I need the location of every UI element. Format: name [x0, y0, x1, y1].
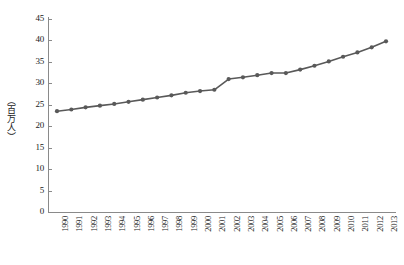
data-point-marker	[312, 64, 316, 68]
data-point-marker	[227, 77, 231, 81]
data-point-marker	[327, 59, 331, 63]
data-point-marker	[184, 91, 188, 95]
data-point-marker	[284, 71, 288, 75]
x-axis-tick-label: 2001	[218, 216, 227, 256]
x-axis-tick-label: 1993	[104, 216, 113, 256]
x-axis-tick-label: 1991	[75, 216, 84, 256]
x-axis-tick-label: 2011	[361, 216, 370, 256]
y-axis-tick-label: 0	[14, 207, 44, 216]
x-axis-tick-label: 2010	[347, 216, 356, 256]
y-axis-tick-label: 45	[14, 14, 44, 23]
data-point-marker	[55, 109, 59, 113]
data-point-marker	[112, 102, 116, 106]
x-axis-tick-label: 1998	[175, 216, 184, 256]
x-axis-tick-label: 2012	[376, 216, 385, 256]
x-axis-tick-label: 2003	[247, 216, 256, 256]
data-point-marker	[370, 45, 374, 49]
data-point-marker	[98, 104, 102, 108]
data-point-marker	[255, 73, 259, 77]
x-axis-tick-label: 1995	[133, 216, 142, 256]
x-axis-tick-label: 2013	[390, 216, 399, 256]
plot-area	[48, 19, 398, 212]
y-axis-tick-label: 40	[14, 35, 44, 44]
x-axis-tick-label: 2007	[304, 216, 313, 256]
y-axis-tick-label: 35	[14, 57, 44, 66]
x-axis-tick-label: 1994	[118, 216, 127, 256]
y-axis-tick-label: 10	[14, 164, 44, 173]
data-point-marker	[384, 39, 388, 43]
x-axis-tick-label: 2000	[204, 216, 213, 256]
y-axis-tick-label: 5	[14, 186, 44, 195]
data-series-line	[48, 19, 398, 212]
x-axis-tick-label: 1992	[90, 216, 99, 256]
y-axis-tick-label: 25	[14, 100, 44, 109]
y-axis-tick-label: 15	[14, 143, 44, 152]
data-point-marker	[341, 55, 345, 59]
y-axis-tick-label: 20	[14, 121, 44, 130]
x-axis-tick-label: 1999	[190, 216, 199, 256]
x-axis-tick-label: 2002	[233, 216, 242, 256]
x-axis-tick-label: 2008	[318, 216, 327, 256]
x-axis-tick-label: 1997	[161, 216, 170, 256]
x-axis-tick-label: 2005	[276, 216, 285, 256]
data-point-marker	[355, 50, 359, 54]
chart-figure: （百万人） 051015202530354045 199019911992199…	[0, 0, 404, 265]
x-axis-tick-label: 1990	[61, 216, 70, 256]
series-polyline	[57, 41, 386, 111]
data-point-marker	[269, 71, 273, 75]
data-point-marker	[84, 105, 88, 109]
x-axis-tick-label: 1996	[147, 216, 156, 256]
x-axis-line	[48, 212, 396, 213]
x-axis-tick-label: 2009	[333, 216, 342, 256]
data-point-marker	[198, 89, 202, 93]
data-point-marker	[126, 100, 130, 104]
data-point-marker	[241, 75, 245, 79]
data-point-marker	[298, 68, 302, 72]
x-axis-tick-label: 2006	[290, 216, 299, 256]
x-axis-tick-label: 2004	[261, 216, 270, 256]
data-point-marker	[212, 88, 216, 92]
data-point-marker	[169, 93, 173, 97]
data-point-marker	[141, 98, 145, 102]
data-point-marker	[155, 95, 159, 99]
y-axis-tick-label: 30	[14, 78, 44, 87]
data-point-marker	[69, 107, 73, 111]
y-axis-tick	[48, 212, 52, 213]
